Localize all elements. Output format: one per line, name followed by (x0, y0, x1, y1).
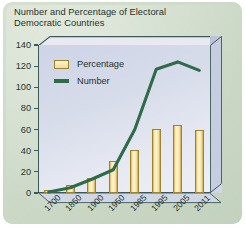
chart-legend: Percentage Number (54, 57, 124, 91)
y-axis-tick-label: 120 (16, 61, 31, 71)
bottom-page-edge (0, 226, 245, 231)
y-axis-tick-label: 100 (16, 82, 31, 92)
plot-area: 020406080100120140 Percentage Number (38, 45, 222, 193)
legend-line-swatch-icon (54, 79, 69, 82)
chart-figure: Number and Percentage of Electoral Democ… (0, 0, 245, 231)
y-axis-tick-label: 20 (21, 167, 31, 177)
legend-entry-percentage: Percentage (54, 57, 124, 71)
legend-bar-swatch-icon (54, 60, 69, 69)
legend-label-percentage: Percentage (77, 59, 124, 69)
legend-label-number: Number (77, 76, 110, 86)
legend-entry-number: Number (54, 74, 124, 88)
y-axis-tick-label: 140 (16, 40, 31, 50)
chart-title: Number and Percentage of Electoral Democ… (14, 7, 219, 30)
y-axis-tick-label: 60 (21, 125, 31, 135)
y-axis-tick-label: 40 (21, 146, 31, 156)
left-page-edge (0, 0, 3, 231)
y-axis-tick-label: 0 (26, 188, 31, 198)
y-axis-tick-label: 80 (21, 103, 31, 113)
